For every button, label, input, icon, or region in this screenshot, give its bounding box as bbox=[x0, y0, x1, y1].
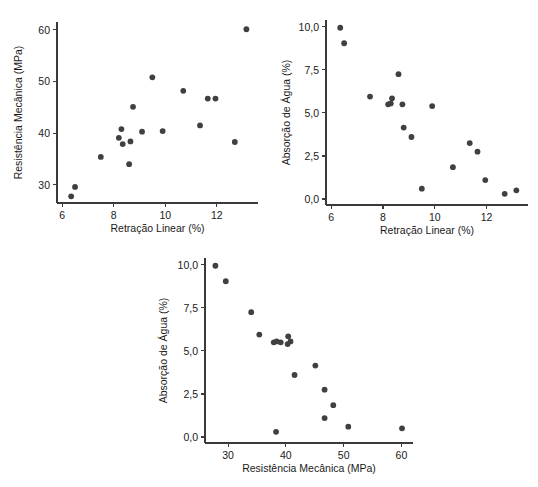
y-axis-tick-label: 10,0 bbox=[178, 259, 199, 271]
x-axis-tick-label: 50 bbox=[338, 449, 350, 461]
data-point bbox=[341, 40, 347, 46]
x-axis-tick-label: 12 bbox=[211, 209, 223, 221]
data-point bbox=[205, 96, 211, 102]
y-axis-tick-label: 60 bbox=[38, 24, 50, 36]
scatter-chart-resistencia-vs-absorcao: 304050600,02,55,07,510,0Resistência Mecâ… bbox=[133, 238, 433, 487]
y-axis-tick-label: 0,0 bbox=[304, 193, 319, 205]
data-point bbox=[232, 139, 238, 145]
x-axis-tick-label: 8 bbox=[111, 209, 117, 221]
data-point bbox=[98, 154, 104, 160]
data-point bbox=[273, 429, 279, 435]
y-axis-tick-label: 30 bbox=[38, 179, 50, 191]
y-axis-title: Absorção de Água (%) bbox=[280, 60, 292, 166]
y-axis-tick-label: 5,0 bbox=[304, 107, 319, 119]
data-point bbox=[285, 333, 291, 339]
chart-canvas: 68101230405060Retração Linear (%)Resistê… bbox=[0, 0, 272, 240]
data-point bbox=[475, 149, 481, 155]
data-point bbox=[278, 339, 284, 345]
y-axis-tick-label: 2,5 bbox=[304, 150, 319, 162]
data-point bbox=[180, 88, 186, 94]
chart-canvas: 6810120,02,55,07,510,0Retração Linear (%… bbox=[266, 0, 538, 240]
x-axis-title: Resistência Mecânica (MPa) bbox=[242, 462, 376, 474]
data-point bbox=[213, 96, 219, 102]
data-point bbox=[389, 95, 395, 101]
data-point bbox=[513, 187, 519, 193]
data-point bbox=[223, 278, 229, 284]
data-point bbox=[419, 186, 425, 192]
data-point bbox=[312, 363, 318, 369]
x-axis-tick-label: 40 bbox=[280, 449, 292, 461]
y-axis-tick-label: 7,5 bbox=[183, 302, 198, 314]
data-point bbox=[345, 424, 351, 430]
data-point bbox=[139, 129, 145, 135]
y-axis-tick-label: 10,0 bbox=[299, 21, 320, 33]
scatter-chart-retracao-vs-absorcao: 6810120,02,55,07,510,0Retração Linear (%… bbox=[266, 0, 538, 240]
x-axis-tick-label: 30 bbox=[222, 449, 234, 461]
x-axis-tick-label: 8 bbox=[380, 211, 386, 223]
data-point bbox=[256, 332, 262, 338]
data-point bbox=[322, 415, 328, 421]
x-axis-tick-label: 12 bbox=[481, 211, 493, 223]
scatter-chart-retracao-vs-resistencia: 68101230405060Retração Linear (%)Resistê… bbox=[0, 0, 272, 240]
x-axis-tick-label: 10 bbox=[429, 211, 441, 223]
x-axis-tick-label: 6 bbox=[59, 209, 65, 221]
data-point bbox=[72, 184, 78, 190]
data-point bbox=[400, 101, 406, 107]
data-point bbox=[429, 103, 435, 109]
data-point bbox=[467, 140, 473, 146]
data-point bbox=[337, 25, 343, 31]
x-axis-title: Retração Linear (%) bbox=[111, 222, 205, 234]
data-point bbox=[409, 134, 415, 140]
data-point bbox=[388, 101, 394, 107]
data-point bbox=[130, 104, 136, 110]
data-point bbox=[120, 141, 126, 147]
data-point bbox=[330, 402, 336, 408]
data-point bbox=[322, 387, 328, 393]
data-point bbox=[482, 177, 488, 183]
x-axis-tick-label: 10 bbox=[159, 209, 171, 221]
data-point bbox=[128, 139, 134, 145]
data-point bbox=[244, 26, 250, 32]
data-point bbox=[68, 193, 74, 199]
x-axis-tick-label: 60 bbox=[396, 449, 408, 461]
data-point bbox=[149, 74, 155, 80]
y-axis-title: Absorção de Água (%) bbox=[157, 298, 169, 404]
data-point bbox=[396, 71, 402, 77]
data-point bbox=[197, 123, 203, 129]
data-point bbox=[288, 339, 294, 345]
y-axis-tick-label: 40 bbox=[38, 127, 50, 139]
data-point-group bbox=[337, 25, 519, 197]
data-point bbox=[213, 263, 219, 269]
y-axis-title: Resistência Mecânica (MPa) bbox=[12, 46, 24, 180]
data-point-group bbox=[213, 263, 405, 435]
data-point-group bbox=[68, 26, 249, 199]
data-point bbox=[119, 126, 125, 132]
y-axis-tick-label: 0,0 bbox=[183, 431, 198, 443]
data-point bbox=[401, 125, 407, 131]
x-axis-title: Retração Linear (%) bbox=[380, 224, 474, 236]
data-point bbox=[248, 309, 254, 315]
y-axis-tick-label: 2,5 bbox=[183, 388, 198, 400]
data-point bbox=[367, 94, 373, 100]
y-axis-tick-label: 5,0 bbox=[183, 345, 198, 357]
data-point bbox=[116, 135, 122, 141]
data-point bbox=[450, 164, 456, 170]
data-point bbox=[399, 425, 405, 431]
data-point bbox=[292, 372, 298, 378]
data-point bbox=[126, 161, 132, 167]
y-axis-tick-label: 7,5 bbox=[304, 64, 319, 76]
data-point bbox=[160, 128, 166, 134]
chart-canvas: 304050600,02,55,07,510,0Resistência Mecâ… bbox=[133, 238, 433, 487]
y-axis-tick-label: 50 bbox=[38, 75, 50, 87]
data-point bbox=[502, 191, 508, 197]
x-axis-tick-label: 6 bbox=[328, 211, 334, 223]
